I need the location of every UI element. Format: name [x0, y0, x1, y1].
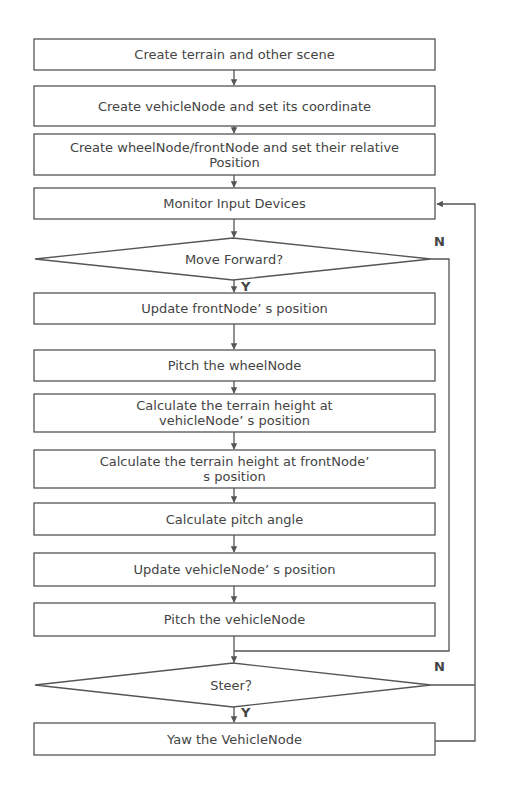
- label-move-forward: Move Forward?: [134, 248, 334, 270]
- label-update-frontnode: Update frontNode’ s position: [34, 293, 435, 324]
- label-calc-height-vehicle: Calculate the terrain height at vehicleN…: [95, 394, 374, 432]
- label-steer-yes: Y: [241, 705, 250, 720]
- label-move-forward-no: N: [434, 234, 445, 249]
- label-update-vehiclenode: Update vehicleNode’ s position: [34, 553, 435, 586]
- label-create-terrain: Create terrain and other scene: [34, 39, 435, 70]
- label-steer-no: N: [434, 659, 445, 674]
- label-create-vehiclenode: Create vehicleNode and set its coordinat…: [90, 86, 379, 126]
- label-calc-height-front: Calculate the terrain height at frontNod…: [95, 450, 374, 488]
- label-pitch-vehiclenode: Pitch the vehicleNode: [34, 603, 435, 636]
- label-monitor-input: Monitor Input Devices: [34, 188, 435, 219]
- label-create-wheelnode: Create wheelNode/frontNode and set their…: [60, 134, 409, 175]
- label-yaw-vehiclenode: Yaw the VehicleNode: [34, 723, 435, 755]
- label-steer: Steer？: [134, 674, 334, 696]
- label-calc-pitch-angle: Calculate pitch angle: [34, 503, 435, 535]
- label-move-forward-yes: Y: [241, 279, 250, 294]
- label-pitch-wheelnode: Pitch the wheelNode: [34, 350, 435, 381]
